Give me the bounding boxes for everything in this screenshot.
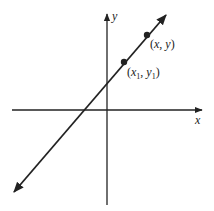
point-xy-label: (x, y): [150, 37, 175, 51]
x-axis-label: x: [194, 113, 201, 127]
y-axis-label: y: [111, 9, 118, 23]
point-x1y1-label: (x1, y1): [127, 65, 160, 81]
coordinate-diagram: y x (x, y) (x1, y1): [0, 0, 214, 211]
line: [14, 15, 166, 192]
